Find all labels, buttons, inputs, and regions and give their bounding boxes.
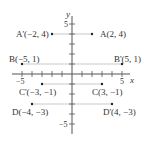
label-b: B(−5, 1) bbox=[9, 54, 40, 64]
y-min-label: −5 bbox=[59, 120, 68, 129]
y-max-label: 5 bbox=[64, 20, 68, 29]
point-a-prime bbox=[51, 33, 53, 35]
coordinate-plane: y x 5 −5 −5 5 A'(−2, 4) A(2, 4) B(−5, 1)… bbox=[0, 0, 151, 143]
x-axis-label: x bbox=[129, 75, 134, 85]
label-c: C(3, −1) bbox=[92, 87, 123, 97]
point-a bbox=[91, 33, 93, 35]
label-d: D(−4, −3) bbox=[12, 107, 48, 117]
label-a: A(2, 4) bbox=[100, 29, 126, 39]
label-a-prime: A'(−2, 4) bbox=[16, 29, 49, 39]
x-max-label: 5 bbox=[120, 77, 124, 86]
label-b-prime: B'(5, 1) bbox=[114, 54, 141, 64]
point-d bbox=[31, 103, 33, 105]
point-d-prime bbox=[111, 103, 113, 105]
point-c bbox=[101, 83, 103, 85]
x-min-label: −5 bbox=[16, 77, 25, 86]
label-d-prime: D'(4, −3) bbox=[103, 107, 136, 117]
y-axis-label: y bbox=[65, 9, 70, 19]
point-c-prime bbox=[41, 83, 43, 85]
label-c-prime: C'(−3, −1) bbox=[19, 87, 56, 97]
